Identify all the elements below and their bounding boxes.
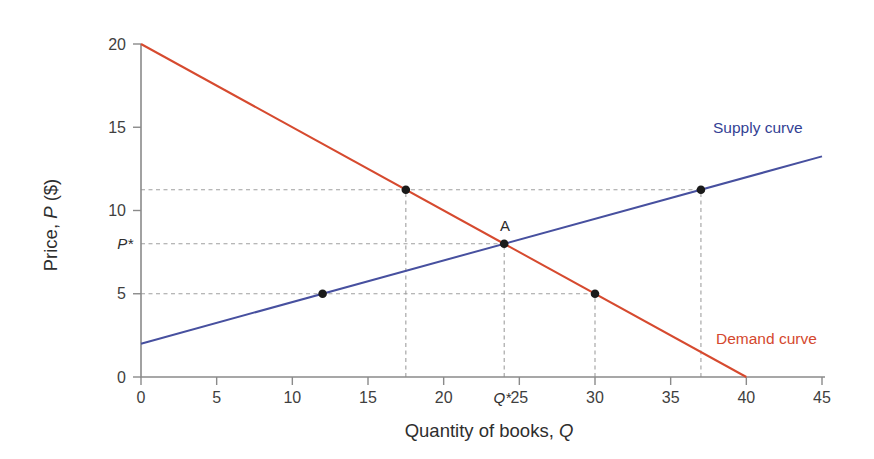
axes-layer: 05101520253035404505101520	[108, 36, 831, 407]
y-axis-title: Price, P ($)	[40, 179, 61, 272]
x-tick-label: 40	[737, 389, 755, 406]
y-axis-title-post: ($)	[40, 179, 61, 207]
dashed-guides-layer	[141, 190, 701, 377]
equilibrium-point	[500, 240, 509, 249]
demand-curve	[141, 44, 746, 377]
x-tick-label: 5	[212, 389, 221, 406]
x-tick-label: 35	[662, 389, 680, 406]
axes	[141, 44, 825, 377]
x-axis-title-var: Q	[559, 420, 573, 441]
y-tick-label: 10	[108, 202, 126, 219]
supply-point	[318, 289, 327, 298]
x-tick-label: 45	[813, 389, 831, 406]
x-tick-label: 15	[359, 389, 377, 406]
y-tick-label: 5	[117, 285, 126, 302]
p-star-label: P*	[117, 235, 134, 252]
supply-curve	[141, 156, 822, 343]
demand-curve-label: Demand curve	[716, 330, 817, 347]
supply-demand-figure: 05101520253035404505101520 Price, P ($) …	[0, 0, 874, 459]
supply-point	[697, 185, 706, 194]
y-tick-label: 20	[108, 36, 126, 53]
x-tick-label: 25	[510, 389, 528, 406]
x-tick-label: 0	[137, 389, 146, 406]
y-axis-title-var: P	[40, 206, 61, 219]
curves-layer	[141, 44, 822, 377]
demand-point	[402, 185, 411, 194]
q-star-label: Q*	[493, 389, 512, 406]
y-axis-title-pre: Price,	[40, 219, 61, 271]
y-tick-label: 15	[108, 119, 126, 136]
supply-curve-label: Supply curve	[713, 119, 803, 136]
x-axis-title-main: Quantity of books,	[405, 420, 559, 441]
x-axis-title: Quantity of books, Q	[405, 420, 574, 441]
x-tick-label: 10	[283, 389, 301, 406]
demand-point	[591, 289, 600, 298]
supply-demand-chart: 05101520253035404505101520 Price, P ($) …	[0, 0, 874, 459]
x-tick-label: 30	[586, 389, 604, 406]
x-tick-label: 20	[435, 389, 453, 406]
y-tick-label: 0	[117, 369, 126, 386]
equilibrium-label: A	[500, 217, 510, 234]
